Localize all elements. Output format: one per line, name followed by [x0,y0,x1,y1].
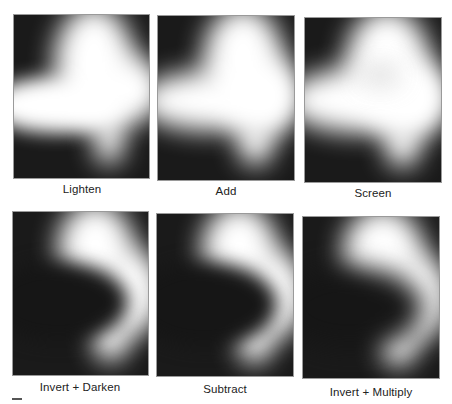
panel-add [157,15,295,181]
panel-screen [304,17,442,183]
panel-subtract [156,213,294,377]
panel-invert-darken [12,211,149,376]
label-lighten: Lighten [7,183,157,195]
screen-gray-spot [360,66,400,84]
label-invert-darken: Invert + Darken [5,381,155,393]
label-invert-multiply: Invert + Multiply [296,386,446,398]
label-screen: Screen [298,187,448,199]
page-edge-mark [12,398,22,400]
label-add: Add [151,185,301,197]
panel-invert-multiply [302,216,440,379]
label-subtract: Subtract [150,383,300,395]
panel-lighten [13,14,150,179]
